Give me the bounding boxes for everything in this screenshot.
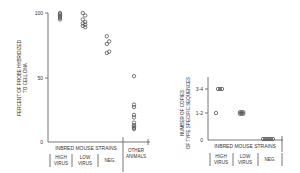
left-labels: 100 50 0 PERCENT OF PROBE HYBRIDIZED TO … [17,10,146,166]
left-data-points [58,11,135,131]
right-cat-high-line1: HIGH [215,154,226,159]
figure: 100 50 0 PERCENT OF PROBE HYBRIDIZED TO … [0,0,300,173]
left-y-tick-label-50: 50 [37,75,43,81]
right-cat-low-line2: VIRUS [238,160,252,165]
data-point-low-virus [84,14,87,17]
left-cat-neg: NEG. [104,158,115,163]
data-point-neg- [105,42,108,45]
right-chart-copies [205,77,283,166]
left-cat-low-line1: LOW [80,155,91,160]
left-cat-low-line2: VIRUS [78,161,92,166]
right-cat-high-line2: VIRUS [214,160,228,165]
right-y-tick-label-12: 1-2 [196,110,203,116]
left-y-tick-label-0: 0 [40,139,43,145]
right-y-label-line2: OF TYPE SPECIFIC SEQUENCES [186,77,191,149]
left-y-tick-label-100: 100 [35,10,44,16]
data-point-high-virus [214,111,217,114]
data-point-neg- [105,35,108,38]
left-cat-other-line2: ANIMALS [126,154,146,159]
right-labels: 3-4 1-2 0 NUMBER OF COPIES OF TYPE SPECI… [180,77,276,165]
left-group-header: INBRED MOUSE STRAINS [55,145,117,151]
right-y-label-line1: NUMBER OF COPIES [180,90,185,136]
left-cat-high-line1: HIGH [55,155,66,160]
left-cat-high-line2: VIRUS [54,161,68,166]
right-cat-low-line1: LOW [240,154,251,159]
left-y-label-line1: PERCENT OF PROBE HYBRIDIZED [17,39,22,116]
right-y-tick-label-0: 0 [200,137,203,143]
right-y-tick-label-34: 3-4 [196,86,203,92]
right-cat-neg: NEG. [264,157,275,162]
right-group-header: INBRED MOUSE STRAINS [214,143,276,149]
left-cat-other-line1: OTHER [128,148,145,153]
left-y-label-line2: TO CELL DNA [23,62,28,93]
right-data-points [214,87,274,140]
data-point-other-animals [132,75,135,78]
